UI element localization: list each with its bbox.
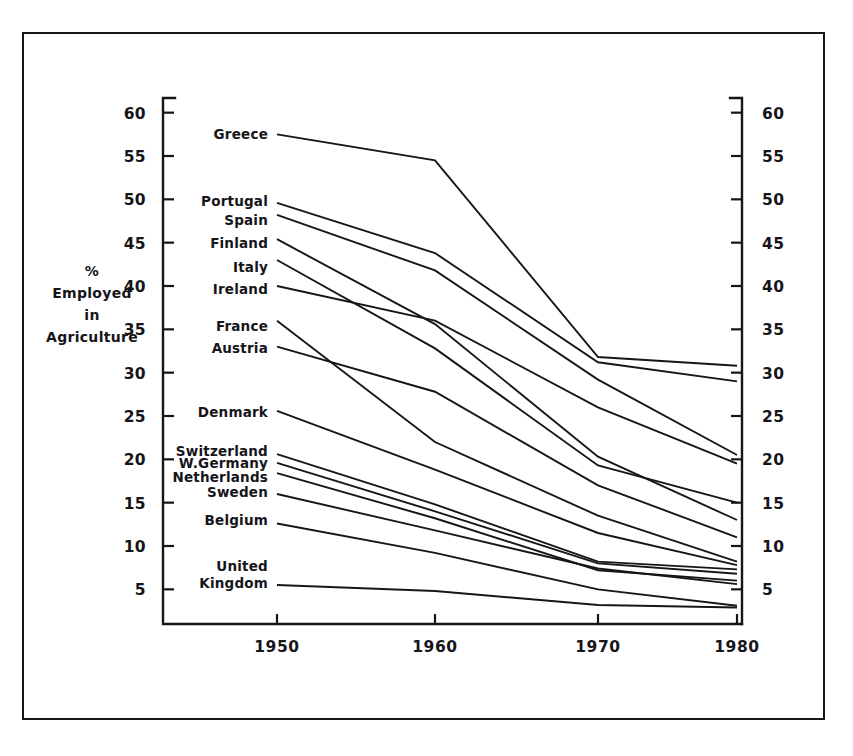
series-line-france [277,321,737,562]
y-tick-label-left: 45 [124,235,146,253]
series-lines-group [277,134,737,607]
y-axis-title: %EmployedinAgriculture [46,263,138,345]
series-label-austria: Austria [212,340,268,356]
y-tick-label-right: 45 [762,235,784,253]
y-tick-label-right: 10 [762,538,784,556]
series-label-belgium: Belgium [205,512,268,528]
y-tick-label-left: 10 [124,538,146,556]
series-label-sweden: Sweden [207,484,268,500]
series-label-united-kingdom-line2: Kingdom [199,575,268,591]
y-tick-label-left: 55 [124,148,146,166]
y-axis-title-line: % [85,263,99,279]
y-axis-title-line: Agriculture [46,329,138,345]
series-label-france: France [216,318,268,334]
x-tick-label: 1980 [714,638,760,656]
y-tick-label-left: 50 [124,191,146,209]
y-tick-label-left: 60 [124,105,146,123]
y-tick-label-right: 20 [762,451,784,469]
y-axis-title-line: in [84,307,99,323]
series-label-netherlands: Netherlands [172,469,268,485]
figure-page: 6060555550504545404035353030252520201515… [0,0,853,756]
series-line-greece [277,134,737,365]
series-labels-group: GreecePortugalSpainFinlandItalyIrelandFr… [172,126,268,591]
x-tick-label: 1960 [412,638,458,656]
y-tick-label-right: 60 [762,105,784,123]
series-line-italy [277,260,737,503]
y-tick-label-right: 30 [762,365,784,383]
series-line-spain [277,215,737,455]
y-tick-label-left: 20 [124,451,146,469]
series-label-ireland: Ireland [213,281,268,297]
line-chart: 6060555550504545404035353030252520201515… [0,0,853,756]
y-tick-label-left: 5 [135,581,146,599]
series-label-finland: Finland [210,235,268,251]
y-tick-label-right: 40 [762,278,784,296]
x-tick-label: 1950 [254,638,300,656]
series-line-w-germany [277,463,737,574]
series-label-italy: Italy [233,259,268,275]
y-tick-label-right: 55 [762,148,784,166]
y-axis-title-line: Employed [52,285,132,301]
series-line-portugal [277,203,737,382]
x-tick-label: 1970 [575,638,621,656]
y-tick-label-right: 50 [762,191,784,209]
y-tick-label-left: 15 [124,495,146,513]
series-label-united-kingdom: United [216,558,268,574]
series-label-portugal: Portugal [201,193,268,209]
y-tick-label-right: 35 [762,321,784,339]
series-line-finland [277,239,737,520]
series-line-united-kingdom [277,585,737,608]
series-line-austria [277,347,737,538]
y-tick-label-right: 5 [762,581,773,599]
y-tick-label-left: 30 [124,365,146,383]
series-label-spain: Spain [224,212,268,228]
y-tick-label-right: 25 [762,408,784,426]
series-label-greece: Greece [214,126,268,142]
series-label-denmark: Denmark [198,404,269,420]
y-tick-label-left: 25 [124,408,146,426]
y-tick-label-right: 15 [762,495,784,513]
